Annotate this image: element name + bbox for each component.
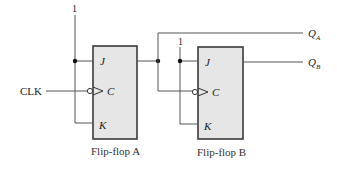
junction-dot-b-j xyxy=(178,59,182,63)
flip-flop-a-clock-inversion-bubble-icon xyxy=(87,88,92,93)
flip-flop-b-k-pin-label: K xyxy=(203,120,212,132)
qb-label-letter: Q xyxy=(308,56,316,68)
flip-flop-a: J C K Flip-flop A xyxy=(87,46,140,157)
flip-flop-a-k-pin-label: K xyxy=(98,119,107,131)
flip-flop-a-c-pin-label: C xyxy=(107,85,115,97)
junction-dot-a-j xyxy=(73,59,77,63)
flip-flop-b-logic-high-label: 1 xyxy=(178,36,183,47)
qa-output-label: Q A xyxy=(308,27,321,42)
flip-flop-a-logic-high-label: 1 xyxy=(72,3,77,14)
qa-to-flip-flop-b-clock-wire xyxy=(158,61,195,91)
flip-flop-b-caption: Flip-flop B xyxy=(197,146,246,158)
clock-input-label: CLK xyxy=(20,85,42,97)
qa-label-subscript: A xyxy=(315,34,321,42)
flip-flop-b-clock-inversion-bubble-icon xyxy=(192,89,197,94)
qa-label-letter: Q xyxy=(308,27,316,39)
qb-label-subscript: B xyxy=(316,63,321,71)
flip-flop-a-caption: Flip-flop A xyxy=(91,145,140,157)
flip-flop-b-c-pin-label: C xyxy=(212,86,220,98)
flip-flop-b: J C K Flip-flop B xyxy=(192,47,246,158)
circuit-diagram: J C K Flip-flop A 1 CLK J C K Flip-flop … xyxy=(0,0,337,178)
qb-output-label: Q B xyxy=(308,56,321,71)
